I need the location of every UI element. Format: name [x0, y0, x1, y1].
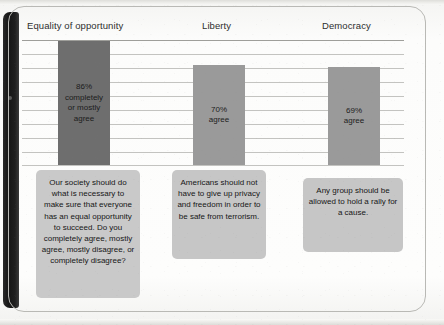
statement-box-democracy: Any group should be allowed to hold a ra… — [303, 178, 403, 252]
statement-boxes: Our society should do what is necessary … — [22, 10, 412, 310]
page-top-edge — [0, 0, 444, 5]
screenshot-root: Equality of opportunity Liberty Democrac… — [0, 0, 444, 325]
statement-box-equality: Our society should do what is necessary … — [36, 170, 140, 298]
page-bottom-edge — [0, 319, 444, 325]
bar-chart: Equality of opportunity Liberty Democrac… — [22, 10, 412, 310]
statement-box-liberty: Americans should not have to give up pri… — [172, 170, 266, 259]
